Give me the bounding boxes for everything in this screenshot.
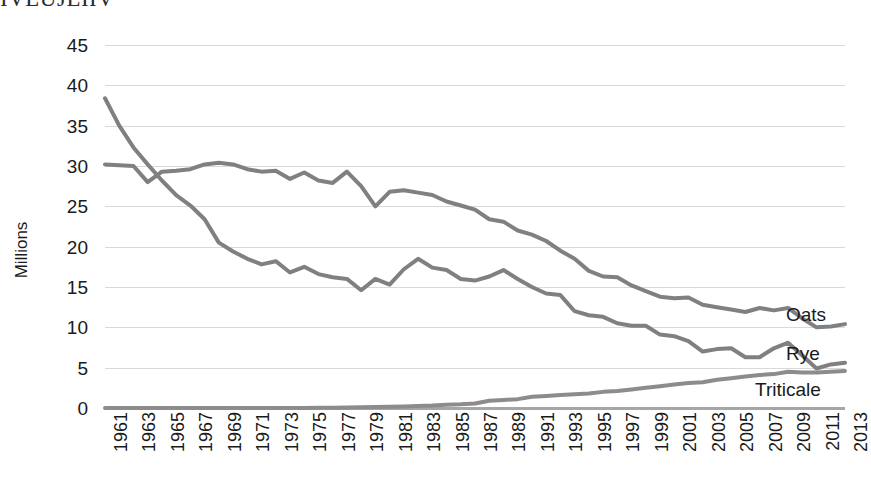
x-tick-label: 2011 xyxy=(824,412,842,451)
y-tick-label: 5 xyxy=(77,358,88,377)
x-tick-label: 1965 xyxy=(169,412,187,452)
x-tick-label: 1997 xyxy=(624,412,642,452)
plot-area xyxy=(105,45,845,408)
x-tick-label: 2013 xyxy=(852,412,870,452)
x-tick-label: 1981 xyxy=(397,412,415,452)
y-tick-label: 0 xyxy=(77,399,88,418)
x-tick-label: 1967 xyxy=(197,412,215,452)
x-tick-label: 1989 xyxy=(510,412,528,452)
x-tick-label: 1995 xyxy=(596,412,614,452)
x-tick-label: 2007 xyxy=(767,412,785,452)
y-tick-label: 20 xyxy=(67,237,88,256)
x-tick-label: 2009 xyxy=(795,412,813,452)
series-line-rye xyxy=(105,98,845,368)
x-tick-label: 1977 xyxy=(340,412,358,452)
y-tick-label: 45 xyxy=(67,36,88,55)
x-tick-label: 1987 xyxy=(482,412,500,452)
series-line-triticale xyxy=(105,371,845,408)
x-tick-label: 1985 xyxy=(454,412,472,452)
y-tick-label: 35 xyxy=(67,116,88,135)
x-tick-label: 1961 xyxy=(112,412,130,452)
y-tick-label: 15 xyxy=(67,278,88,297)
series-label-oats: Oats xyxy=(786,304,826,326)
x-tick-label: 1971 xyxy=(254,412,272,452)
y-tick-label: 30 xyxy=(67,157,88,176)
y-axis-tick-labels: 454035302520151050 xyxy=(0,0,100,494)
series-label-rye: Rye xyxy=(786,343,820,365)
series-lines xyxy=(105,45,845,408)
y-tick-label: 40 xyxy=(67,76,88,95)
series-line-oats xyxy=(105,163,845,328)
x-tick-label: 1975 xyxy=(311,412,329,452)
x-tick-label: 2003 xyxy=(710,412,728,452)
x-axis-tick-labels: 1961196319651967196919711973197519771979… xyxy=(105,412,845,494)
x-tick-label: 1963 xyxy=(140,412,158,452)
series-label-triticale: Triticale xyxy=(755,379,821,401)
x-tick-label: 2001 xyxy=(681,412,699,452)
x-tick-label: 1993 xyxy=(567,412,585,452)
y-tick-label: 25 xyxy=(67,197,88,216)
x-tick-label: 1991 xyxy=(539,412,557,452)
x-tick-label: 1983 xyxy=(425,412,443,452)
x-tick-label: 1969 xyxy=(226,412,244,452)
x-tick-label: 1979 xyxy=(368,412,386,452)
x-tick-label: 1999 xyxy=(653,412,671,452)
y-tick-label: 10 xyxy=(67,318,88,337)
x-tick-label: 2005 xyxy=(738,412,756,452)
x-tick-label: 1973 xyxy=(283,412,301,452)
